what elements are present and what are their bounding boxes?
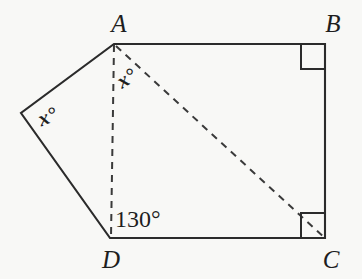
pentagon-outline <box>21 44 325 238</box>
vertex-label-d: D <box>101 246 120 273</box>
right-angle-icon-c <box>301 213 325 237</box>
right-angle-icon-b <box>301 45 325 69</box>
angle-label-x-at-left-vertex: x° <box>33 102 61 132</box>
vertex-label-a: A <box>109 10 127 37</box>
vertex-label-c: C <box>323 246 340 273</box>
vertex-label-b: B <box>325 10 340 37</box>
angle-label-130-at-d: 130° <box>115 206 161 232</box>
angle-label-x-at-a: x° <box>111 63 141 94</box>
geometry-canvas: A B C D x° x° 130° <box>0 0 362 279</box>
geometry-figure: A B C D x° x° 130° <box>0 0 362 279</box>
